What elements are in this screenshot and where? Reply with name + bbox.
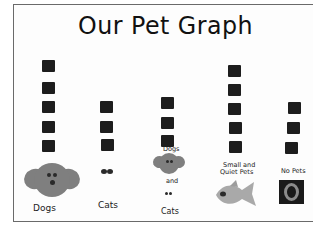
category-label-mid: and: [166, 178, 178, 185]
category-label-bottom: Cats: [161, 207, 179, 216]
category-label-line2: Quiet Pets: [220, 169, 253, 176]
tally-square: [42, 101, 55, 113]
dog-icon: [153, 153, 185, 175]
tally-square: [228, 84, 241, 96]
tally-square: [42, 140, 55, 152]
tally-square: [228, 103, 241, 115]
tally-square: [42, 121, 55, 133]
tally-square: [229, 141, 242, 153]
category-label: Cats: [98, 200, 118, 210]
dog-icon: [24, 163, 80, 199]
category-label: No Pets: [281, 168, 306, 175]
category-label-top: Dogs: [163, 146, 180, 153]
no-pets-zero-icon: [279, 180, 304, 204]
tally-square: [285, 142, 298, 154]
tally-square: [229, 122, 242, 134]
fish-icon: [212, 178, 260, 210]
tally-square: [100, 101, 113, 113]
tally-square: [101, 139, 114, 151]
tally-square: [161, 117, 174, 129]
chart-title: Our Pet Graph: [78, 11, 253, 40]
tally-square: [42, 82, 55, 94]
tally-square: [100, 121, 113, 133]
tally-square: [288, 102, 301, 114]
tally-square: [228, 65, 241, 77]
category-label: Dogs: [33, 203, 56, 213]
tally-square: [42, 60, 55, 72]
tally-square: [161, 97, 174, 109]
tally-square: [287, 122, 300, 134]
